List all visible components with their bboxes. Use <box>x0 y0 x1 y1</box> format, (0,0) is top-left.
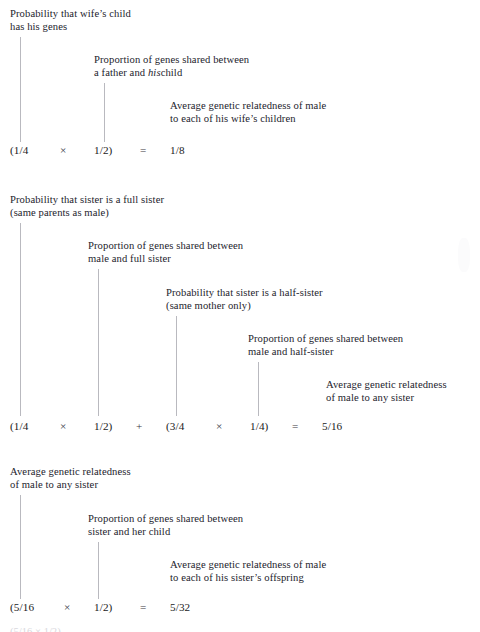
label-text-pre: a father and <box>94 67 148 78</box>
leader-line <box>258 362 259 416</box>
equation-term: 1/2) <box>94 142 112 158</box>
equation-operator: = <box>140 599 146 615</box>
annotation-label: Average genetic relatedness of male to e… <box>170 100 326 125</box>
equation-operator: + <box>136 418 142 434</box>
label-line: Average genetic relatedness of male <box>170 559 326 572</box>
cutoff-text: (5/16 × 1/2) <box>10 626 61 632</box>
annotation-label: Average genetic relatedness of male to a… <box>10 466 131 491</box>
annotation-label: Probability that sister is a full sister… <box>10 194 164 219</box>
equation-term: 1/4) <box>250 418 268 434</box>
leader-line <box>98 542 99 599</box>
annotation-label: Proportion of genes shared between a fat… <box>94 54 249 79</box>
label-line: has his genes <box>10 21 131 34</box>
equation-term: (1/4 <box>10 142 28 158</box>
equation-operator: × <box>216 418 222 434</box>
leader-line <box>176 316 177 416</box>
annotation-label: Proportion of genes shared between male … <box>88 240 243 265</box>
label-line: Average genetic relatedness <box>10 466 131 479</box>
label-line: of male to any sister <box>326 392 447 405</box>
equation-term: 1/2) <box>94 418 112 434</box>
label-line: (same parents as male) <box>10 207 164 220</box>
label-text-post: child <box>161 67 183 78</box>
label-line: male and full sister <box>88 253 243 266</box>
label-line: Proportion of genes shared between <box>94 54 249 67</box>
equation-operator: × <box>64 599 70 615</box>
annotation-label: Probability that wife’s child has his ge… <box>10 8 131 33</box>
scan-artifact <box>458 238 470 272</box>
annotation-label: Probability that sister is a half-sister… <box>166 287 323 312</box>
label-line: Average genetic relatedness of male <box>170 100 326 113</box>
label-line: Probability that wife’s child <box>10 8 131 21</box>
annotation-label: Proportion of genes shared between siste… <box>88 513 243 538</box>
equation-row: (1/4 × 1/2) + (3/4 × 1/4) = 5/16 <box>0 418 420 434</box>
equation-term: (5/16 <box>10 599 34 615</box>
equation-term: (3/4 <box>166 418 184 434</box>
label-line: Probability that sister is a half-sister <box>166 287 323 300</box>
label-italic-word: his <box>148 67 161 78</box>
leader-line <box>20 37 21 142</box>
annotation-label: Proportion of genes shared between male … <box>248 333 403 358</box>
equation-operator: × <box>60 418 66 434</box>
equation-term: (1/4 <box>10 418 28 434</box>
label-line: sister and her child <box>88 526 243 539</box>
label-line: Proportion of genes shared between <box>88 240 243 253</box>
label-line: male and half-sister <box>248 346 403 359</box>
label-line: Average genetic relatedness <box>326 379 447 392</box>
genetic-relatedness-figure: Probability that wife’s child has his ge… <box>0 0 480 632</box>
equation-operator: × <box>60 142 66 158</box>
label-line: to each of his sister’s offspring <box>170 572 326 585</box>
equation-row: (5/16 × 1/2) = 5/32 <box>0 599 280 615</box>
label-line: of male to any sister <box>10 479 131 492</box>
equation-result: 5/16 <box>322 418 342 434</box>
annotation-label: Average genetic relatedness of male to e… <box>170 559 326 584</box>
label-line: a father and hischild <box>94 67 249 80</box>
label-line: Probability that sister is a full sister <box>10 194 164 207</box>
equation-result: 5/32 <box>170 599 190 615</box>
leader-line <box>104 83 105 142</box>
leader-line <box>20 495 21 599</box>
label-line: (same mother only) <box>166 300 323 313</box>
equation-result: 1/8 <box>170 142 185 158</box>
label-line: Proportion of genes shared between <box>248 333 403 346</box>
annotation-label: Average genetic relatedness of male to a… <box>326 379 447 404</box>
equation-operator: = <box>292 418 298 434</box>
equation-term: 1/2) <box>94 599 112 615</box>
leader-line <box>98 269 99 416</box>
equation-row: (1/4 × 1/2) = 1/8 <box>0 142 280 158</box>
equation-operator: = <box>140 142 146 158</box>
label-line: Proportion of genes shared between <box>88 513 243 526</box>
label-line: to each of his wife’s children <box>170 113 326 126</box>
leader-line <box>20 223 21 416</box>
